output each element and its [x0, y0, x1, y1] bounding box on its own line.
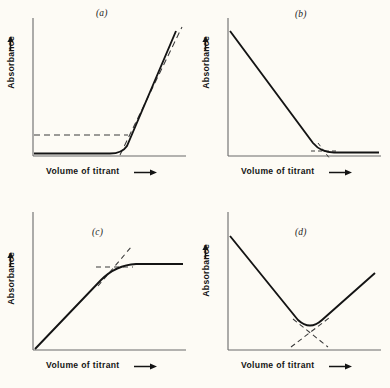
- panel-c: (c) Absorbance Volume of titrant: [0, 194, 195, 388]
- axes-b: [228, 18, 381, 156]
- x-axis-label-d: Volume of titrant: [241, 360, 315, 370]
- x-axis-label-c: Volume of titrant: [46, 360, 120, 370]
- panel-d-plot: [195, 194, 390, 388]
- x-axis-label-b: Volume of titrant: [241, 166, 315, 176]
- panel-label-c: (c): [92, 227, 103, 237]
- panel-a: (a) Absorbance Volume of titrant: [0, 0, 195, 194]
- y-axis-label-group-c: Absorbance: [6, 252, 16, 352]
- y-axis-label-b: Absorbance: [201, 36, 211, 89]
- figure-photometric-titration-curves: (a) Absorbance Volume of titrant: [0, 0, 390, 388]
- y-axis-label-group-a: Absorbance: [6, 36, 16, 136]
- y-axis-label-group-b: Absorbance: [201, 36, 211, 136]
- panel-label-a: (a): [96, 8, 108, 18]
- y-axis-label-c: Absorbance: [6, 252, 16, 305]
- panel-b-plot: [195, 0, 390, 194]
- panel-b: (b) Absorbance Volume of titrant: [195, 0, 390, 194]
- panel-label-d: (d): [295, 227, 307, 237]
- y-axis-label-d: Absorbance: [201, 244, 211, 297]
- panel-d: (d) Absorbance Volume of titrant: [195, 194, 390, 388]
- titration-curve-b: [230, 31, 379, 153]
- right-arrow-icon: [329, 168, 353, 177]
- panel-a-plot: [0, 0, 195, 194]
- axes-c: [33, 212, 186, 350]
- x-axis-label-a: Volume of titrant: [46, 166, 120, 176]
- y-axis-label-a: Absorbance: [6, 36, 16, 89]
- panel-label-b: (b): [295, 9, 307, 19]
- right-arrow-icon: [134, 168, 158, 177]
- titration-curve-d: [230, 236, 375, 326]
- y-axis-label-group-d: Absorbance: [201, 244, 211, 344]
- panel-c-plot: [0, 194, 195, 388]
- right-arrow-icon: [329, 362, 353, 371]
- dashed-extrapolation-d-falling: [293, 319, 328, 347]
- titration-curve-c: [35, 264, 183, 349]
- right-arrow-icon: [134, 362, 158, 371]
